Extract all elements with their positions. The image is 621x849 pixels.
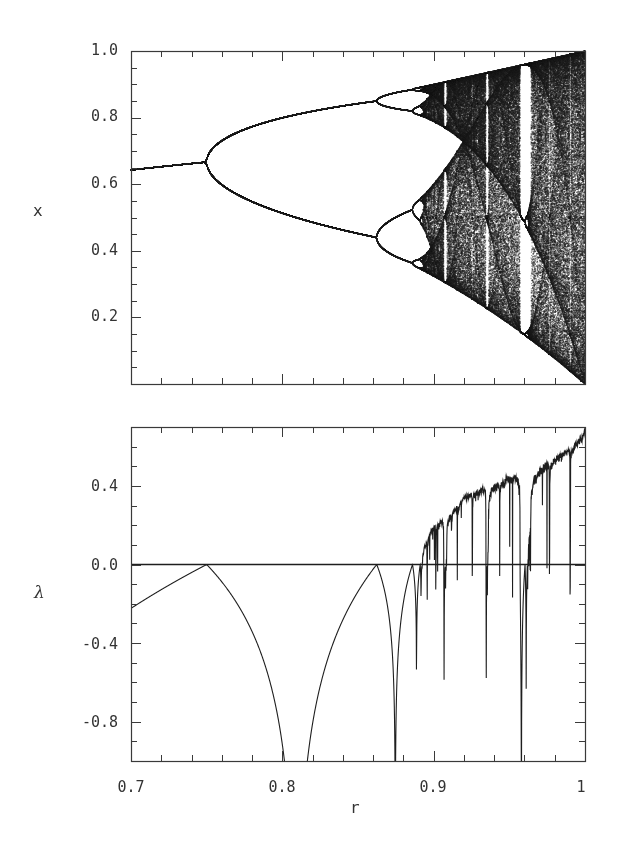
xtick-label: 0.7 <box>101 778 161 796</box>
bottom-ytick-label: 0.4 <box>58 477 118 495</box>
xtick-label: 1 <box>551 778 611 796</box>
top-ytick-label: 1.0 <box>58 41 118 59</box>
top-ytick-label: 0.2 <box>58 307 118 325</box>
top-y-axis-label: x <box>33 201 43 220</box>
top-ytick-label: 0.8 <box>58 107 118 125</box>
bottom-ytick-label: -0.8 <box>58 713 118 731</box>
top-ytick-label: 0.4 <box>58 241 118 259</box>
bottom-ytick-label: -0.4 <box>58 635 118 653</box>
xtick-label: 0.9 <box>403 778 463 796</box>
bottom-y-axis-label: λ <box>34 582 45 602</box>
bottom-ytick-label: 0.0 <box>58 556 118 574</box>
top-ytick-label: 0.6 <box>58 174 118 192</box>
x-axis-label: r <box>350 798 360 817</box>
xtick-label: 0.8 <box>252 778 312 796</box>
